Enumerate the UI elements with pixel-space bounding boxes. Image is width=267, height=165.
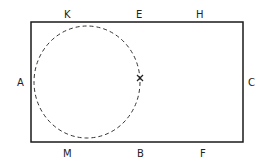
diagram-canvas: K E H A C M B F [0,0,267,165]
label-h: H [196,9,204,20]
label-f: F [200,148,206,159]
label-b: B [137,148,144,159]
label-k: K [64,9,71,20]
rectangle-outline [31,22,243,142]
label-c: C [248,77,255,88]
label-e: E [136,9,142,20]
dashed-circle [34,26,140,138]
label-a: A [17,77,24,88]
label-m: M [63,148,72,159]
